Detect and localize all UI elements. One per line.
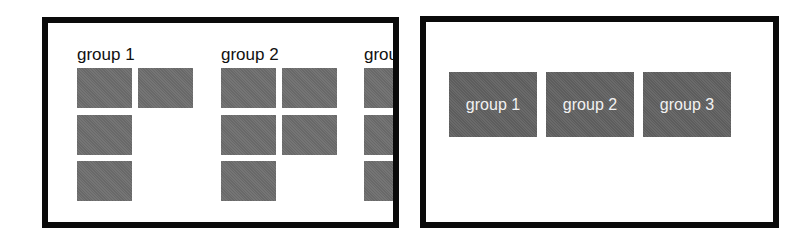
tile xyxy=(364,68,399,108)
group-label: group 1 xyxy=(77,45,135,65)
group-tile-1: group 1 xyxy=(449,72,537,137)
tile xyxy=(77,161,132,201)
tile xyxy=(138,68,193,108)
tile xyxy=(221,115,276,155)
group-tile-3: group 3 xyxy=(643,72,731,137)
group-label: group 3 xyxy=(364,45,399,65)
tile xyxy=(282,115,337,155)
tile xyxy=(221,161,276,201)
tile xyxy=(77,68,132,108)
tile xyxy=(221,68,276,108)
expanded-groups-panel: group 1 group 2 group 3 xyxy=(42,17,399,228)
group-label: group 2 xyxy=(221,45,279,65)
tile xyxy=(364,115,399,155)
tile xyxy=(77,115,132,155)
collapsed-groups-panel: group 1 group 2 group 3 xyxy=(420,16,779,228)
tile xyxy=(282,68,337,108)
group-tile-2: group 2 xyxy=(546,72,634,137)
tile xyxy=(364,161,399,201)
